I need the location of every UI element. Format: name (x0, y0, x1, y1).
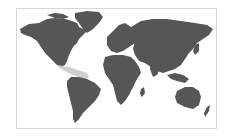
south-america (67, 77, 101, 123)
madagascar (140, 87, 145, 97)
map-frame (16, 8, 217, 129)
india (150, 61, 161, 77)
north-america (20, 18, 87, 67)
central-america-highlight (57, 65, 89, 79)
world-map (17, 9, 216, 128)
new-zealand (204, 105, 210, 117)
asia (131, 19, 213, 73)
arctic-islands (47, 13, 69, 19)
australia (175, 87, 201, 109)
southeast-asia-islands (167, 73, 189, 83)
africa (103, 55, 141, 105)
